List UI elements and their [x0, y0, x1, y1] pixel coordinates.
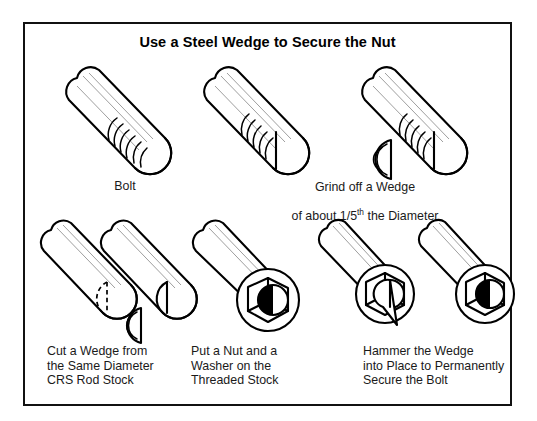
- diagram-title: Use a Steel Wedge to Secure the Nut: [25, 34, 510, 50]
- illustration-two-assemblies-wedge-driven-home: [313, 212, 508, 340]
- caption-step-nut-washer: Put a Nut and a Washer on the Threaded S…: [191, 344, 351, 388]
- illustration-rod-with-nut-and-washer: [185, 212, 325, 337]
- illustration-bolt-with-flat-ground-face: [185, 62, 335, 182]
- diagram-frame: Use a Steel Wedge to Secure the Nut Bolt: [23, 22, 512, 406]
- caption-step-bolt: Bolt: [65, 179, 185, 194]
- caption-step-cut-wedge: Cut a Wedge from the Same Diameter CRS R…: [47, 344, 207, 388]
- illustration-threaded-bolt-rod: [47, 62, 197, 182]
- illustration-bolt-with-detached-wedge: [343, 62, 503, 187]
- wedge-piece: [373, 140, 391, 179]
- caption-step-hammer-wedge: Hammer the Wedge into Place to Permanent…: [363, 344, 537, 388]
